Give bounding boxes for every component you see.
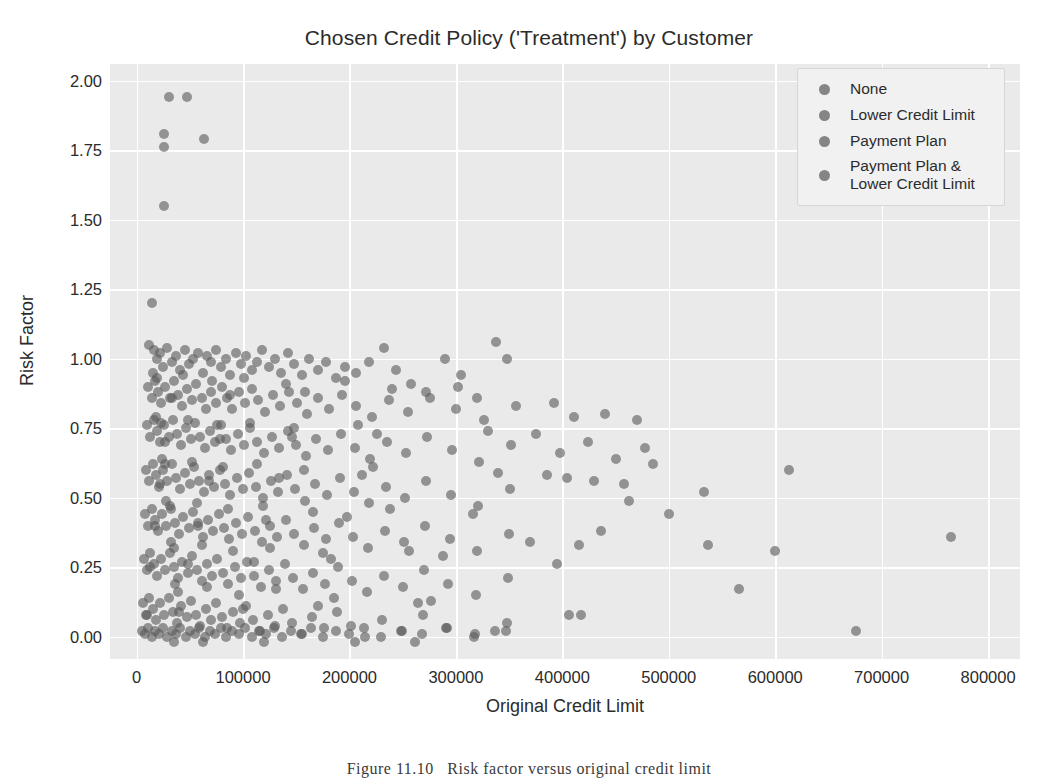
data-point: [197, 393, 207, 403]
gridline-horizontal-5: [110, 289, 1020, 291]
data-point: [250, 526, 260, 536]
data-point: [472, 546, 482, 556]
data-point: [183, 559, 193, 569]
data-point: [186, 434, 196, 444]
y-axis-tick-labels: 0.000.250.500.751.001.251.501.752.00: [32, 64, 102, 659]
data-point: [703, 540, 713, 550]
data-point: [313, 601, 323, 611]
data-point: [252, 357, 262, 367]
data-point: [503, 573, 513, 583]
data-point: [946, 532, 956, 542]
legend-label: Payment Plan & Lower Credit Limit: [850, 157, 975, 194]
data-point: [178, 512, 188, 522]
data-point: [178, 370, 188, 380]
data-point: [342, 512, 352, 522]
data-point: [308, 507, 318, 517]
data-point: [155, 479, 165, 489]
data-point: [349, 487, 359, 497]
data-point: [206, 357, 216, 367]
x-tick-label-7: 700000: [854, 668, 909, 687]
data-point: [304, 354, 314, 364]
data-point: [268, 390, 278, 400]
data-point: [309, 523, 319, 533]
data-point: [596, 526, 606, 536]
y-axis-label: Risk Factor: [17, 241, 38, 441]
data-point: [199, 487, 209, 497]
data-point: [237, 529, 247, 539]
legend-item-0[interactable]: None: [808, 76, 994, 102]
data-point: [240, 398, 250, 408]
data-point: [281, 515, 291, 525]
data-point: [184, 523, 194, 533]
x-axis-tick-labels: 0100000200000300000400000500000600000700…: [110, 668, 1020, 692]
data-point: [225, 370, 235, 380]
legend-marker-icon: [819, 110, 830, 121]
data-point: [145, 548, 155, 558]
data-point: [156, 418, 166, 428]
data-point: [418, 610, 428, 620]
data-point: [212, 420, 222, 430]
data-point: [288, 573, 298, 583]
legend-item-2[interactable]: Payment Plan: [808, 128, 994, 154]
data-point: [734, 584, 744, 594]
data-point: [221, 354, 231, 364]
data-point: [299, 540, 309, 550]
data-point: [298, 584, 308, 594]
data-point: [555, 448, 565, 458]
data-point: [198, 637, 208, 647]
y-tick-label-5: 1.25: [38, 280, 102, 299]
legend-item-3[interactable]: Payment Plan & Lower Credit Limit: [808, 154, 994, 196]
data-point: [180, 468, 190, 478]
data-point: [380, 526, 390, 536]
data-point: [259, 448, 269, 458]
gridline-vertical-4: [562, 64, 564, 659]
data-point: [228, 607, 238, 617]
data-point: [194, 476, 204, 486]
data-point: [212, 554, 222, 564]
data-point: [203, 515, 213, 525]
data-point: [211, 598, 221, 608]
data-point: [474, 457, 484, 467]
data-point: [247, 384, 257, 394]
data-point: [167, 393, 177, 403]
data-point: [200, 443, 210, 453]
data-point: [225, 490, 235, 500]
data-point: [147, 504, 157, 514]
data-point: [504, 529, 514, 539]
data-point: [564, 610, 574, 620]
data-point: [219, 523, 229, 533]
data-point: [187, 457, 197, 467]
data-point: [286, 626, 296, 636]
data-point: [443, 579, 453, 589]
data-point: [150, 521, 160, 531]
data-point: [422, 432, 432, 442]
data-point: [251, 482, 261, 492]
data-point: [479, 415, 489, 425]
data-point: [362, 587, 372, 597]
data-point: [379, 343, 389, 353]
data-point: [202, 582, 212, 592]
data-point: [483, 426, 493, 436]
data-point: [770, 546, 780, 556]
data-point: [337, 390, 347, 400]
data-point: [217, 612, 227, 622]
data-point: [287, 432, 297, 442]
data-point: [273, 487, 283, 497]
data-point: [453, 382, 463, 392]
data-point: [323, 445, 333, 455]
data-point: [364, 357, 374, 367]
data-point: [142, 610, 152, 620]
data-point: [296, 629, 306, 639]
data-point: [252, 459, 262, 469]
data-point: [283, 348, 293, 358]
data-point: [511, 401, 521, 411]
data-point: [208, 526, 218, 536]
data-point: [147, 298, 157, 308]
data-point: [384, 395, 394, 405]
data-point: [234, 387, 244, 397]
data-point: [218, 462, 228, 472]
x-tick-label-3: 300000: [428, 668, 483, 687]
data-point: [619, 479, 629, 489]
data-point: [230, 562, 240, 572]
legend-item-1[interactable]: Lower Credit Limit: [808, 102, 994, 128]
